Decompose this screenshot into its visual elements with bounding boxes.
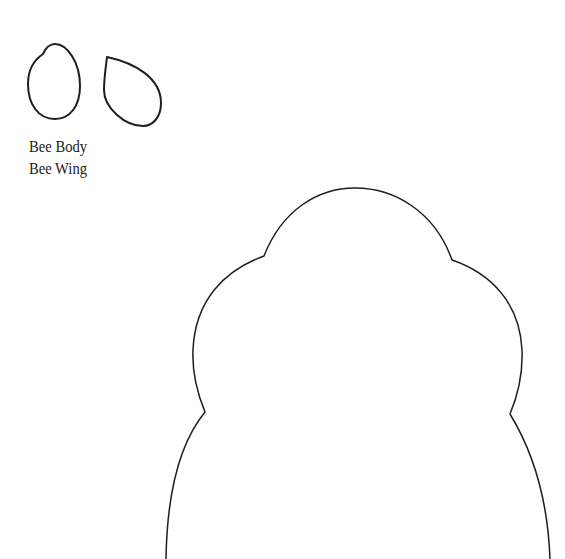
template-sheet: Bee Body Bee Wing [0,0,565,559]
label-bee-body: Bee Body [29,136,87,158]
bee-wing-outline [104,57,161,126]
hive-outline [166,188,550,559]
piece-labels: Bee Body Bee Wing [29,136,87,180]
bee-body-outline [28,44,80,119]
label-bee-wing: Bee Wing [29,158,87,180]
template-canvas [0,0,565,559]
